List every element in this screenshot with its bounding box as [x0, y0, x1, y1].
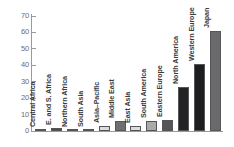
y-axis-tick-label: 50 [21, 44, 29, 54]
bar [99, 126, 110, 131]
y-axis-tick-label: 70 [21, 11, 29, 21]
bar [146, 121, 157, 131]
bar-category-label: South Asia [77, 91, 85, 127]
bar [67, 129, 78, 131]
bar-category-label: Northern Africa [61, 76, 69, 127]
bar [83, 129, 94, 131]
y-axis-tick-label: 40 [21, 60, 29, 70]
bar-category-label: Japan [203, 8, 211, 28]
bar [194, 64, 205, 131]
bar-category-label: Eastern Europe [156, 66, 164, 118]
y-axis-tick: 50 [0, 44, 36, 54]
bar-series: Central AfricaE. and S. AfricaNorthern A… [33, 16, 223, 131]
y-axis-tick: 60 [0, 27, 36, 37]
bar [130, 126, 141, 131]
bar [162, 120, 173, 131]
bar [178, 87, 189, 131]
bar-category-label: North America [172, 36, 180, 84]
y-axis-tick: 70 [0, 11, 36, 21]
bar [51, 128, 62, 131]
bar-slot: Japan [207, 16, 223, 131]
bar [210, 31, 221, 131]
y-axis-tick: 0 [0, 126, 36, 136]
bar-category-label: South America [140, 69, 148, 118]
bar-category-label: Central Africa [29, 82, 37, 127]
bar-category-label: Middle East [108, 79, 116, 118]
bar-category-label: E. and S. Africa [45, 74, 53, 125]
bar-category-label: Asia–Pacific [93, 82, 101, 123]
bar-chart: 706050403020100 Central AfricaE. and S. … [0, 0, 234, 147]
y-axis-tick-label: 60 [21, 27, 29, 37]
y-axis-tick: 40 [0, 60, 36, 70]
bar [35, 129, 46, 131]
bar-category-label: East Asia [124, 92, 132, 123]
y-axis-tick-label: 0 [25, 126, 29, 136]
bar-category-label: Western Europe [188, 8, 196, 62]
bar-slot: Western Europe [191, 16, 207, 131]
